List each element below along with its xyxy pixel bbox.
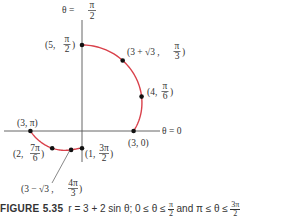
label-5-pi-2: (5, π 2 ) (45, 34, 75, 54)
label-den: 3 (71, 188, 76, 198)
curve-segment-first-quadrant (82, 45, 142, 131)
label-num: 4π (68, 178, 78, 188)
curve-point (131, 129, 136, 134)
label-text: ) (79, 184, 82, 195)
curve-point (120, 58, 125, 63)
label-den: 3 (175, 51, 180, 61)
fraction-den: 2 (230, 210, 240, 218)
label-num: π (65, 34, 70, 44)
caption-middle: and π ≤ θ ≤ (177, 203, 228, 214)
label-text: ) (41, 149, 44, 160)
label-num: π (175, 41, 180, 51)
curve-point (50, 146, 55, 151)
label-4-pi-6: (4, π 6 ) (147, 81, 173, 101)
label-1-3pi-2: (1, 3π 2 ) (85, 143, 113, 163)
label-text: (2, (13, 149, 23, 160)
label-num: 3π (99, 143, 109, 153)
caption-fraction-1: π2 (168, 201, 174, 218)
label-3-minus-sqrt3-4pi-3: (3 − √3 , 4π 3 ) (21, 178, 82, 198)
figure-number: FIGURE 5.35 (0, 203, 63, 214)
curve-point (80, 146, 85, 151)
vertical-axis-label-num: π (90, 0, 95, 10)
vertical-axis-label: θ = π 2 (62, 0, 96, 21)
curve-point (80, 43, 85, 48)
label-text: (5, (45, 40, 55, 51)
curve-point (139, 94, 144, 99)
vertical-axis-label-den: 2 (90, 11, 95, 21)
label-den: 6 (33, 153, 38, 163)
label-3-0: (3, 0) (128, 138, 149, 149)
label-den: 2 (102, 153, 107, 163)
label-text: ) (182, 47, 185, 58)
curve-point (28, 129, 33, 134)
caption-fraction-2: 3π2 (230, 201, 240, 218)
caption-equation: r = 3 + 2 sin θ; 0 ≤ θ ≤ (68, 203, 165, 214)
label-text: (4, (147, 87, 157, 98)
fraction-den: 2 (168, 210, 174, 218)
label-den: 6 (163, 91, 168, 101)
label-text: (3 − √3 , (21, 184, 54, 195)
polar-graph: θ = π 2 θ = 0 (5, π 2 ) (3 + √3 , π 3 ) … (0, 0, 299, 200)
label-text: (1, (85, 149, 95, 160)
label-2-7pi-6: (2, 7π 6 ) (13, 143, 44, 163)
figure-caption: FIGURE 5.35 r = 3 + 2 sin θ; 0 ≤ θ ≤ π2 … (0, 201, 299, 218)
label-text: ) (110, 149, 113, 160)
label-den: 2 (65, 44, 70, 54)
label-text: (3 + √3 , (127, 47, 160, 58)
vertical-axis-label-prefix: θ = (62, 5, 74, 15)
label-text: ) (72, 40, 75, 51)
horizontal-axis-label: θ = 0 (162, 126, 182, 136)
label-3-plus-sqrt3-pi-3: (3 + √3 , π 3 ) (127, 41, 185, 61)
label-num: 7π (30, 143, 40, 153)
label-3-pi: (3, π) (17, 118, 38, 129)
label-text: ) (170, 87, 173, 98)
label-num: π (163, 81, 168, 91)
